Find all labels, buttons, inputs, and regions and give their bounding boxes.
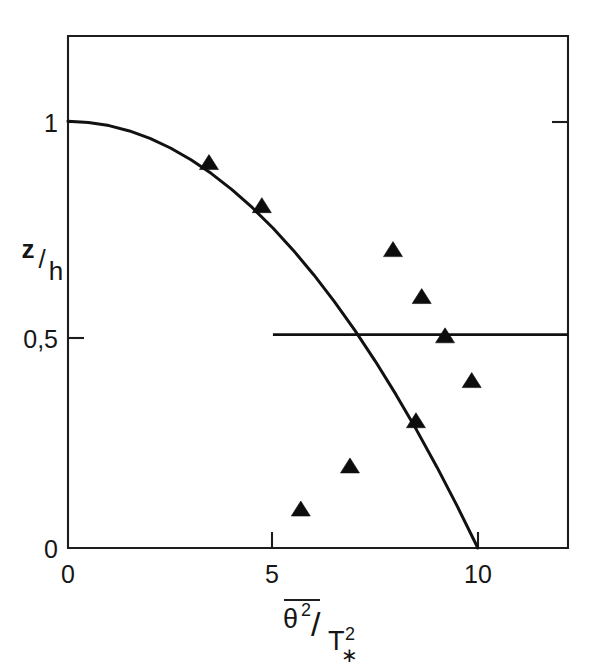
x-tick-label-5: 5 — [265, 560, 279, 588]
x-axis-title-slash: / — [311, 605, 321, 643]
y-tick-label-05: 0,5 — [23, 325, 58, 353]
data-point-marker — [462, 373, 481, 388]
x-axis-title-denominator-exponent: 2 — [345, 624, 355, 644]
scatter-plot-canvas: 1 0,5 0 0 5 10 z / h θ 2 / T ∗ 2 — [0, 0, 593, 670]
y-tick-label-0: 0 — [44, 535, 58, 563]
figure-container: 1 0,5 0 0 5 10 z / h θ 2 / T ∗ 2 — [0, 0, 593, 670]
x-tick-label-10: 10 — [464, 560, 492, 588]
plot-frame — [68, 36, 568, 548]
x-axis-title-denominator-subscript: ∗ — [341, 644, 358, 666]
y-tick-label-1: 1 — [44, 109, 58, 137]
data-point-marker — [199, 155, 218, 170]
y-axis-title-numerator: z — [22, 234, 35, 264]
y-tick-labels: 1 0,5 0 — [23, 109, 58, 563]
data-point-marker — [291, 501, 310, 516]
x-axis-title-numerator: θ — [283, 604, 298, 634]
x-axis-ticks — [272, 532, 478, 548]
data-point-marker — [252, 198, 271, 213]
y-axis-title-denominator: h — [49, 256, 63, 286]
x-axis-title: θ 2 / T ∗ 2 — [283, 600, 358, 666]
x-tick-label-0: 0 — [61, 560, 75, 588]
data-point-marker — [412, 289, 431, 304]
y-axis-title: z / h — [22, 234, 64, 286]
data-point-marker — [340, 458, 359, 473]
data-point-marker — [384, 242, 403, 257]
y-axis-title-slash: / — [38, 244, 46, 274]
frame-rect — [68, 36, 568, 548]
x-tick-labels: 0 5 10 — [61, 560, 492, 588]
x-axis-title-numerator-exponent: 2 — [301, 600, 311, 620]
y-axis-ticks — [68, 122, 568, 338]
